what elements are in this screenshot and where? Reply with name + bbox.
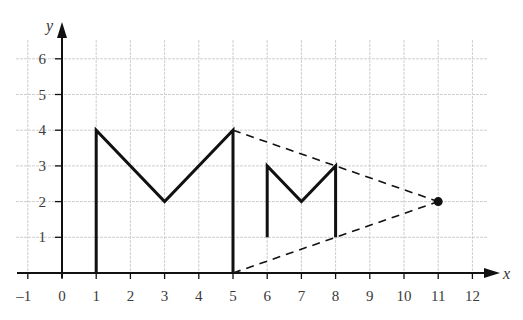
centre-point-marker [434, 197, 443, 206]
x-axis-arrow-icon [484, 268, 500, 278]
tick-marks: –10123456789101112123456 [15, 51, 480, 304]
x-tick-label: 3 [161, 288, 169, 304]
y-tick-label: 6 [39, 51, 47, 67]
x-tick-label: 1 [92, 288, 100, 304]
y-tick-label: 2 [39, 194, 47, 210]
x-tick-label: 2 [127, 288, 135, 304]
x-tick-label: 7 [298, 288, 306, 304]
y-tick-label: 5 [39, 87, 47, 103]
x-tick-label: –1 [15, 288, 31, 304]
annotation-points [434, 197, 443, 206]
x-tick-label: 0 [58, 288, 66, 304]
y-axis-arrow-icon [57, 22, 67, 38]
x-tick-label: 10 [397, 288, 412, 304]
x-tick-label: 4 [195, 288, 203, 304]
y-axis-label: y [44, 17, 54, 35]
grid-lines [16, 40, 488, 273]
x-tick-label: 12 [465, 288, 480, 304]
y-tick-label: 4 [39, 122, 47, 138]
axes: x y [17, 17, 510, 282]
y-tick-label: 1 [39, 229, 47, 245]
x-tick-label: 9 [366, 288, 374, 304]
x-tick-label: 11 [431, 288, 445, 304]
x-tick-label: 8 [332, 288, 340, 304]
x-tick-label: 5 [229, 288, 237, 304]
x-tick-label: 6 [263, 288, 271, 304]
x-axis-label: x [502, 265, 510, 282]
y-tick-label: 3 [39, 158, 47, 174]
coordinate-plot: x y –10123456789101112123456 [0, 0, 523, 320]
